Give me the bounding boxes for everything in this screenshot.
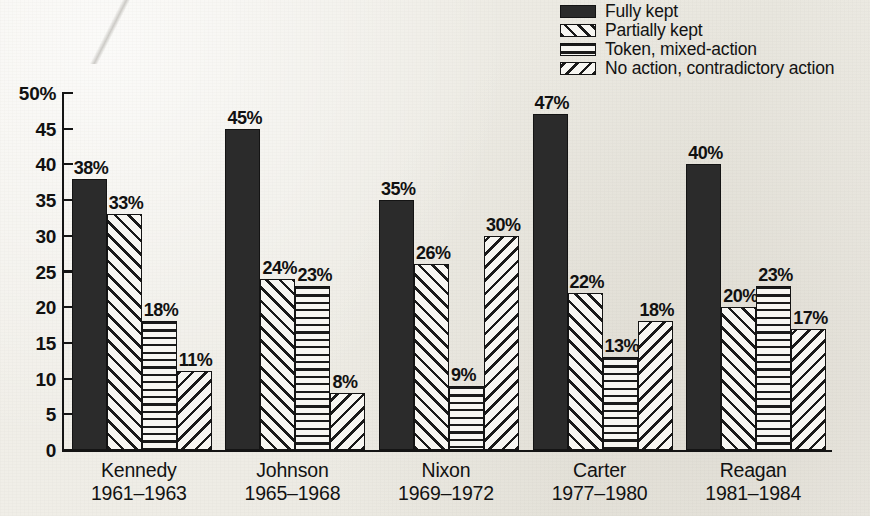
bar [686,164,721,450]
bar-value-label: 30% [486,216,521,234]
bar [603,357,638,450]
bar-value-label: 45% [227,109,262,127]
y-axis-tick-label: 5 [46,404,56,426]
y-axis-tick-label: 10 [35,369,56,391]
legend-swatch-solid-icon [560,5,596,18]
bar [379,200,414,450]
group-year-range: 1969–1972 [369,482,523,505]
y-axis-tick-label: 50% [19,83,56,105]
group-president-name: Carter [523,459,677,482]
bar-value-label: 24% [262,259,297,277]
y-axis-tick-labels: 50%454035302520151050 [0,93,56,450]
group-president-name: Johnson [216,459,370,482]
group-president-name: Kennedy [62,459,216,482]
legend-swatch-diagonal-forward-icon [560,24,596,37]
x-axis-group-label: Carter1977–1980 [523,459,677,505]
legend-item-label: Partially kept [605,21,702,40]
bar-value-label: 20% [723,287,758,305]
bar-value-label: 23% [758,266,793,284]
y-axis-tick-label: 15 [35,333,56,355]
y-axis-tick [62,128,73,130]
y-axis-tick-label: 20 [35,297,56,319]
bar-value-label: 23% [297,266,332,284]
bar [177,371,212,450]
y-axis-tick [62,92,73,94]
group-president-name: Reagan [676,459,830,482]
legend-item-label: No action, contradictory action [605,59,834,78]
bar [638,321,673,450]
x-axis-group-label: Kennedy1961–1963 [62,459,216,505]
bar-value-label: 38% [74,159,109,177]
group-president-name: Nixon [369,459,523,482]
bar-value-label: 33% [109,194,144,212]
bar [533,114,568,450]
bar-value-label: 40% [688,144,723,162]
bar-value-label: 18% [144,301,179,319]
bar [449,386,484,450]
chart-legend: Fully keptPartially keptToken, mixed-act… [560,2,870,78]
y-axis-tick-label: 35 [35,190,56,212]
legend-item-label: Token, mixed-action [605,40,757,59]
bar-value-label: 9% [451,366,476,384]
x-axis-group-label: Johnson1965–1968 [216,459,370,505]
y-axis-tick-label: 0 [46,440,56,462]
bar [72,179,107,450]
bar [107,214,142,450]
bar [414,264,449,450]
bar-value-label: 22% [570,273,605,291]
legend-swatch-horizontal-icon [560,43,596,56]
group-year-range: 1961–1963 [62,482,216,505]
bar [142,321,177,450]
bar-value-label: 13% [605,337,640,355]
bar [330,393,365,450]
y-axis-tick-label: 40 [35,154,56,176]
bar [295,286,330,450]
bar-value-label: 47% [535,94,570,112]
bar-value-label: 18% [640,301,675,319]
y-axis-tick [62,163,73,165]
legend-item: No action, contradictory action [560,59,870,78]
y-axis-tick-label: 45 [35,119,56,141]
bar-value-label: 35% [381,180,416,198]
legend-item: Partially kept [560,21,870,40]
group-year-range: 1965–1968 [216,482,370,505]
legend-item-label: Fully kept [605,2,678,21]
bar [756,286,791,450]
bar [568,293,603,450]
legend-item: Fully kept [560,2,870,21]
bar-chart: Fully keptPartially keptToken, mixed-act… [0,0,870,516]
bar [225,129,260,450]
bar [721,307,756,450]
legend-swatch-diagonal-backward-icon [560,62,596,75]
group-year-range: 1981–1984 [676,482,830,505]
bar [791,329,826,450]
group-year-range: 1977–1980 [523,482,677,505]
x-axis-group-label: Reagan1981–1984 [676,459,830,505]
y-axis-tick-label: 25 [35,262,56,284]
bar [260,279,295,450]
bar [484,236,519,450]
plot-area: 38%33%18%11%45%24%23%8%35%26%9%30%47%22%… [62,93,830,450]
x-axis-group-label: Nixon1969–1972 [369,459,523,505]
legend-item: Token, mixed-action [560,40,870,59]
bar-value-label: 11% [179,351,213,369]
x-axis-line [62,450,832,452]
bar-value-label: 17% [793,309,828,327]
y-axis-tick-label: 30 [35,226,56,248]
bar-value-label: 26% [416,244,451,262]
bar-value-label: 8% [332,373,357,391]
